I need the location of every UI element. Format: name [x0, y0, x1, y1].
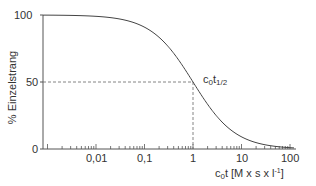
half-time-annotation: c0t1/2	[203, 74, 227, 87]
x-tick-label-0.01: 0,01	[86, 153, 107, 164]
x-axis-label: c0t [M x s x l-1]	[215, 167, 284, 181]
y-axis-label: % Einzelstrang	[7, 51, 18, 124]
plot-area	[0, 0, 316, 186]
x-tick-label-10: 10	[236, 153, 248, 164]
data-curve	[43, 15, 294, 148]
y-tick-label-0: 0	[32, 144, 38, 155]
x-minor-ticks	[48, 144, 291, 149]
x-tick-label-100: 100	[281, 153, 299, 164]
xl-end: ]	[281, 167, 284, 179]
x-tick-label-1: 1	[190, 153, 196, 164]
y-tick-label-50: 50	[26, 77, 38, 88]
x-tick-label-0.1: 0,1	[137, 153, 152, 164]
cot-curve-chart: 100 50 0 % Einzelstrang 0,01 0,1 1 10 10…	[0, 0, 316, 186]
annot-sub-half: 1/2	[216, 78, 227, 87]
xl-rest: t [M x s x l	[225, 167, 275, 179]
y-tick-label-100: 100	[14, 10, 32, 21]
